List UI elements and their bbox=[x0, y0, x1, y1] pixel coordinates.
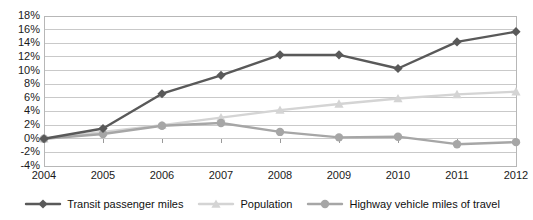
data-point-marker bbox=[275, 50, 284, 59]
data-point-marker bbox=[335, 133, 343, 141]
data-point-marker bbox=[512, 138, 520, 146]
x-tick-label: 2004 bbox=[22, 169, 66, 181]
legend-label: Population bbox=[240, 198, 292, 211]
data-point-marker bbox=[394, 132, 402, 140]
x-axis: 200420052006200720082009201020112012 bbox=[0, 166, 524, 185]
data-point-marker bbox=[158, 122, 166, 130]
legend-swatch-circle-icon bbox=[306, 197, 344, 211]
data-point-marker bbox=[452, 37, 461, 46]
legend-label: Transit passenger miles bbox=[67, 198, 183, 211]
legend-item[interactable]: Transit passenger miles bbox=[24, 197, 183, 211]
x-tick-label: 2007 bbox=[199, 169, 243, 181]
x-tick-label: 2006 bbox=[140, 169, 184, 181]
data-point-marker bbox=[334, 50, 343, 59]
data-point-marker bbox=[276, 128, 284, 136]
x-tick-label: 2012 bbox=[494, 169, 533, 181]
data-point-marker bbox=[321, 200, 329, 208]
x-tick-label: 2005 bbox=[81, 169, 125, 181]
plot-area: 18%16%14%12%10%8%6%4%2%0%-2%-4% 20042005… bbox=[0, 0, 524, 185]
legend-label: Highway vehicle miles of travel bbox=[349, 198, 499, 211]
x-tick-label: 2011 bbox=[435, 169, 479, 181]
x-tick-label: 2010 bbox=[376, 169, 420, 181]
legend-item[interactable]: Highway vehicle miles of travel bbox=[306, 197, 499, 211]
series-line bbox=[44, 32, 516, 139]
data-point-marker bbox=[217, 119, 225, 127]
x-tick-label: 2008 bbox=[258, 169, 302, 181]
chart-legend: Transit passenger milesPopulationHighway… bbox=[0, 188, 524, 220]
plot-canvas bbox=[0, 0, 524, 185]
data-point-marker bbox=[511, 27, 520, 36]
legend-swatch-diamond-icon bbox=[24, 197, 62, 211]
data-point-marker bbox=[39, 199, 48, 208]
series-transit-passenger-miles bbox=[39, 27, 520, 143]
legend-swatch-triangle-icon bbox=[197, 197, 235, 211]
data-point-marker bbox=[216, 71, 225, 80]
data-point-marker bbox=[453, 140, 461, 148]
data-point-marker bbox=[393, 64, 402, 73]
legend-item[interactable]: Population bbox=[197, 197, 292, 211]
x-tick-label: 2009 bbox=[317, 169, 361, 181]
